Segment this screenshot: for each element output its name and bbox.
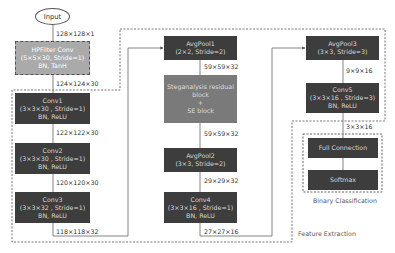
- avgpool1-title: AvgPool1: [186, 40, 215, 48]
- avgpool2-params: (3×3, Stride=2): [175, 160, 225, 168]
- conv3-title: Conv3: [43, 196, 63, 204]
- conv3-activation: BN, ReLU: [38, 212, 67, 220]
- hpfilter-params: (5×5×30, Stride=1): [21, 54, 84, 62]
- conv4-block: Conv4 (3×3×16 , Stride=1) BN, ReLU: [164, 192, 237, 223]
- conv2-block: Conv2 (3×3×30 , Stride=1) BN, ReLU: [15, 143, 90, 174]
- conv2-params: (3×3×30 , Stride=1): [20, 155, 85, 163]
- avgpool2-block: AvgPool2 (3×3, Stride=2): [164, 148, 237, 172]
- conv5-block: Conv5 (3×3×16 , Stride=3) BN, ReLU: [306, 83, 379, 113]
- input-label: Input: [44, 13, 62, 21]
- conv1-params: (3×3×30 , Stride=1): [20, 105, 85, 113]
- feature-extraction-caption: Feature Extraction: [298, 230, 356, 237]
- avgpool1-block: AvgPool1 (2×2, Stride=2): [164, 36, 237, 60]
- avgpool1-params: (2×2, Stride=2): [175, 48, 225, 56]
- conv4-activation: BN, ReLU: [186, 212, 215, 220]
- avgpool3-params: (3×3, Stride=3): [317, 48, 367, 56]
- dim-label: 9×9×16: [346, 67, 373, 75]
- dim-label: 3×3×16: [346, 123, 373, 131]
- softmax-block: Softmax: [308, 170, 378, 190]
- conv2-activation: BN, ReLU: [38, 163, 67, 171]
- conv2-title: Conv2: [43, 147, 63, 155]
- residual-plus: +: [198, 99, 203, 107]
- conv4-params: (3×3×16 , Stride=1): [168, 204, 233, 212]
- dim-label: 128×128×1: [56, 30, 95, 38]
- avgpool3-block: AvgPool3 (3×3, Stride=3): [306, 36, 379, 60]
- hpfilter-activation: BN, TanH: [38, 62, 66, 70]
- dim-label: 122×122×30: [56, 129, 99, 137]
- conv5-activation: BN, ReLU: [328, 102, 357, 110]
- conv1-block: Conv1 (3×3×30 , Stride=1) BN, ReLU: [15, 93, 90, 124]
- residual-line2: block: [192, 91, 209, 99]
- conv3-block: Conv3 (3×3×32 , Stride=1) BN, ReLU: [15, 192, 90, 223]
- dim-label: 27×27×16: [204, 228, 239, 236]
- network-architecture-diagram: Input HPFilter Conv (5×5×30, Stride=1) B…: [0, 0, 395, 253]
- dim-label: 59×59×32: [204, 130, 239, 138]
- full-connection-title: Full Connection: [319, 144, 367, 152]
- avgpool2-title: AvgPool2: [186, 152, 215, 160]
- conv5-title: Conv5: [333, 86, 353, 94]
- avgpool3-title: AvgPool3: [328, 40, 357, 48]
- dim-label: 29×29×32: [204, 177, 239, 185]
- input-node: Input: [35, 8, 70, 25]
- dim-label: 124×124×30: [56, 80, 99, 88]
- hpfilter-conv-block: HPFilter Conv (5×5×30, Stride=1) BN, Tan…: [15, 41, 90, 75]
- residual-line1: Steganalysis residual: [167, 83, 234, 91]
- conv5-params: (3×3×16 , Stride=3): [310, 94, 375, 102]
- dim-label: 118×118×32: [56, 228, 99, 236]
- binary-classification-caption: Binary Classification: [313, 197, 377, 204]
- softmax-title: Softmax: [330, 176, 356, 184]
- full-connection-block: Full Connection: [308, 138, 378, 158]
- residual-se-label: SE block: [187, 107, 214, 115]
- residual-se-block: Steganalysis residual block + SE block: [164, 75, 237, 123]
- dim-label: 59×59×32: [204, 63, 239, 71]
- conv4-title: Conv4: [191, 196, 211, 204]
- hpfilter-title: HPFilter Conv: [31, 46, 73, 54]
- conv3-params: (3×3×32 , Stride=1): [20, 204, 85, 212]
- conv1-title: Conv1: [43, 97, 63, 105]
- conv1-activation: BN, ReLU: [38, 113, 67, 121]
- dim-label: 120×120×30: [56, 179, 99, 187]
